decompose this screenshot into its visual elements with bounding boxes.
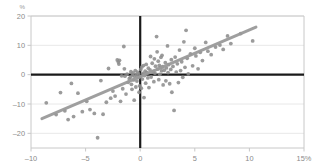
scatter-point xyxy=(59,91,63,95)
scatter-point xyxy=(130,82,134,86)
scatter-point xyxy=(134,85,138,89)
scatter-point xyxy=(204,41,208,45)
scatter-point xyxy=(142,96,146,100)
scatter-point xyxy=(107,67,111,71)
scatter-point xyxy=(149,75,153,79)
scatter-point xyxy=(170,90,174,94)
scatter-point xyxy=(44,101,48,105)
scatter-point xyxy=(147,86,151,90)
scatter-point xyxy=(149,55,153,59)
scatter-point xyxy=(146,76,150,80)
scatter-point xyxy=(88,108,92,112)
y-tick-label: 10 xyxy=(17,41,25,50)
scatter-point xyxy=(118,58,122,62)
scatter-point xyxy=(122,45,126,49)
scatter-point xyxy=(229,42,233,46)
scatter-point xyxy=(221,48,225,52)
scatter-point xyxy=(72,115,76,119)
scatter-point xyxy=(99,79,103,83)
scatter-point xyxy=(171,65,175,69)
chart-background-layer xyxy=(0,0,313,168)
scatter-point xyxy=(196,67,200,71)
scatter-point xyxy=(80,110,84,114)
scatter-point xyxy=(104,100,108,104)
scatter-point xyxy=(183,65,187,69)
scatter-point xyxy=(120,74,124,78)
scatter-point xyxy=(191,64,195,68)
y-tick-label: 0 xyxy=(21,70,25,79)
scatter-point xyxy=(169,58,173,62)
scatter-point xyxy=(122,67,126,71)
scatter-point xyxy=(209,53,213,57)
scatter-point xyxy=(168,82,172,86)
scatter-point xyxy=(113,94,117,98)
scatter-point xyxy=(201,59,205,63)
scatter-chart: –10–5051015% 20100–10–20 % xyxy=(0,0,313,168)
x-tick-label: 5 xyxy=(193,154,197,163)
scatter-point xyxy=(166,71,170,75)
scatter-point xyxy=(172,109,176,113)
scatter-point xyxy=(173,55,177,59)
scatter-point xyxy=(155,50,159,54)
scatter-point xyxy=(152,57,156,61)
scatter-point xyxy=(193,46,197,50)
x-tick-label: 0 xyxy=(138,154,142,163)
scatter-point xyxy=(70,82,74,86)
scatter-point xyxy=(101,112,105,116)
scatter-point xyxy=(92,111,96,115)
y-tick-label: –10 xyxy=(13,100,25,109)
scatter-point xyxy=(155,35,159,39)
scatter-point xyxy=(96,136,100,140)
chart-background xyxy=(0,0,313,168)
scatter-point xyxy=(76,91,80,95)
scatter-point xyxy=(182,40,186,44)
scatter-point xyxy=(144,63,148,67)
scatter-point xyxy=(178,48,182,52)
scatter-point xyxy=(161,83,165,87)
scatter-point xyxy=(119,99,123,103)
scatter-point xyxy=(66,118,70,122)
scatter-point xyxy=(121,87,125,91)
scatter-point xyxy=(160,53,164,57)
scatter-point xyxy=(117,62,121,66)
scatter-point xyxy=(156,59,160,63)
scatter-point xyxy=(139,86,143,90)
scatter-point xyxy=(137,90,141,94)
x-tick-label: –5 xyxy=(81,154,89,163)
y-tick-label: –20 xyxy=(13,129,25,138)
y-tick-label: 20 xyxy=(17,12,25,21)
scatter-point xyxy=(251,39,255,43)
chart-canvas: –10–5051015% 20100–10–20 % xyxy=(0,0,313,168)
scatter-point xyxy=(130,87,134,91)
scatter-point xyxy=(184,28,188,32)
x-tick-label: 10 xyxy=(245,154,253,163)
scatter-point xyxy=(181,75,185,79)
scatter-point xyxy=(179,69,183,73)
y-unit-label-text: % xyxy=(19,3,25,10)
x-tick-label: –10 xyxy=(25,154,37,163)
scatter-point xyxy=(174,70,178,74)
scatter-point xyxy=(166,44,170,48)
scatter-point xyxy=(164,79,168,83)
scatter-point xyxy=(186,72,190,76)
scatter-point xyxy=(144,81,148,85)
x-tick-label: 15% xyxy=(297,154,312,163)
y-axis-unit-label: % xyxy=(19,3,25,10)
scatter-point xyxy=(109,96,113,100)
scatter-point xyxy=(177,81,181,85)
scatter-point xyxy=(150,61,154,65)
scatter-point xyxy=(125,72,129,76)
scatter-point xyxy=(157,78,161,82)
scatter-point xyxy=(152,80,156,84)
scatter-point xyxy=(158,72,162,76)
scatter-point xyxy=(124,92,128,96)
scatter-point xyxy=(132,98,136,102)
